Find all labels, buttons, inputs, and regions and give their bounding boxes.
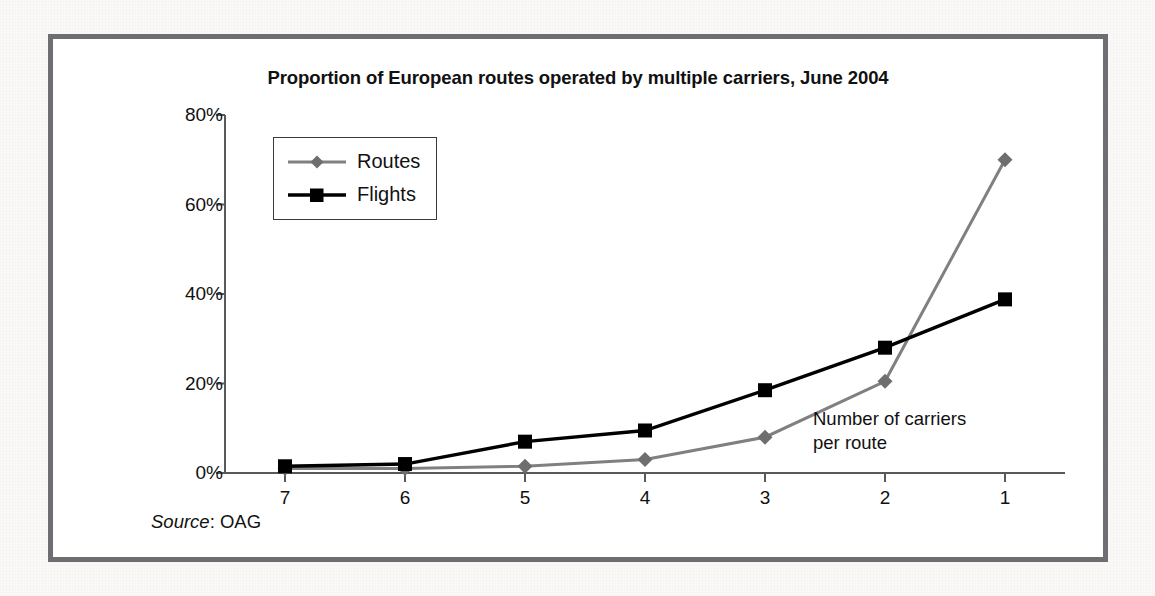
x-axis-tick-label: 1: [1000, 487, 1011, 509]
figure-frame: Proportion of European routes operated b…: [48, 34, 1108, 562]
x-axis-tick-labels: 7654321: [53, 39, 1113, 567]
x-axis-tick-label: 3: [760, 487, 771, 509]
x-axis-tick-label: 4: [640, 487, 651, 509]
source-value: OAG: [220, 511, 261, 532]
legend-item-flights[interactable]: Flights: [286, 178, 420, 211]
source-label: Source: [151, 511, 210, 532]
legend-label-flights: Flights: [357, 183, 416, 206]
axis-annotation: Number of carriers per route: [813, 407, 1043, 456]
chart-container: Proportion of European routes operated b…: [53, 39, 1103, 557]
x-axis-tick-label: 2: [880, 487, 891, 509]
axis-annotation-line-1: Number of carriers: [813, 407, 1043, 431]
source-note: Source: OAG: [151, 511, 261, 533]
axis-annotation-line-2: per route: [813, 431, 1043, 455]
legend-label-routes: Routes: [357, 150, 420, 173]
x-axis-tick-label: 5: [520, 487, 531, 509]
x-axis-tick-label: 7: [280, 487, 291, 509]
source-separator: :: [210, 511, 220, 532]
square-marker-icon: [286, 185, 348, 205]
legend-item-routes[interactable]: Routes: [286, 145, 420, 178]
diamond-marker-icon: [286, 152, 348, 172]
x-axis-tick-label: 6: [400, 487, 411, 509]
chart-legend: Routes Flights: [273, 137, 437, 220]
